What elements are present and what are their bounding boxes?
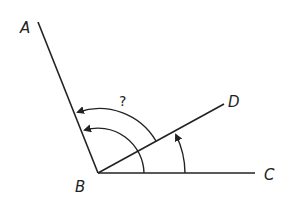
label-A: A xyxy=(19,19,30,37)
arc-angle-DBA xyxy=(85,128,144,173)
unknown-angle-label: ? xyxy=(119,93,126,109)
label-C: C xyxy=(264,166,275,184)
ray-BA xyxy=(38,22,98,173)
arc-angle-unknown xyxy=(78,109,156,141)
ray-BD xyxy=(98,104,224,173)
label-D: D xyxy=(228,93,240,111)
arc-angle-CBD xyxy=(176,135,185,173)
label-B: B xyxy=(75,178,85,196)
angle-diagram: A B C D ? xyxy=(0,0,295,205)
